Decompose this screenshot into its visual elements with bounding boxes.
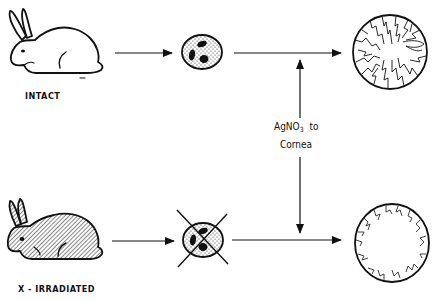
label-x-irradiated: X - IRRADIATED	[18, 284, 95, 294]
rabbit-intact-icon	[10, 9, 103, 78]
agno3-subscript: 3	[300, 126, 304, 134]
label-cornea: Cornea	[280, 139, 312, 150]
label-agno3-to: AgNO3 to	[274, 121, 318, 134]
agno3-suffix: to	[309, 121, 318, 132]
cornea-vascularized-icon	[353, 15, 427, 89]
cornea-minimal-icon	[355, 204, 429, 282]
label-intact: INTACT	[25, 91, 60, 101]
granulocyte-crossed-out-icon	[177, 210, 228, 267]
agno3-main: AgNO	[274, 121, 300, 132]
rabbit-irradiated-icon	[8, 199, 103, 259]
diagram-canvas	[0, 0, 440, 301]
granulocyte-cell-icon	[182, 35, 222, 69]
